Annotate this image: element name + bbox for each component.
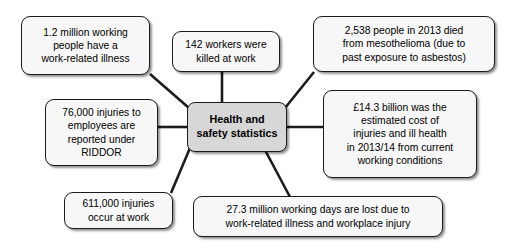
node-cost[interactable]: £14.3 billion was the estimated cost of … xyxy=(323,90,477,178)
connector-center-to-injuries xyxy=(171,148,190,193)
connector-center-to-mesothelioma xyxy=(285,72,314,108)
node-center-label: Health and safety statistics xyxy=(193,113,281,140)
node-days-lost[interactable]: 27.3 million working days are lost due t… xyxy=(193,196,443,237)
node-center-health-and-safety-statistics[interactable]: Health and safety statistics xyxy=(187,102,287,152)
mind-map-diagram: 1.2 million working people have a work-r… xyxy=(0,0,510,251)
connector-center-to-days-lost xyxy=(265,150,290,197)
node-killed[interactable]: 142 workers were killed at work xyxy=(172,31,280,72)
node-illness-label: 1.2 million working people have a work-r… xyxy=(27,26,144,66)
node-mesothelioma[interactable]: 2,538 people in 2013 died from mesotheli… xyxy=(313,16,495,72)
node-cost-label: £14.3 billion was the estimated cost of … xyxy=(329,101,471,167)
node-riddor[interactable]: 76,000 injuries to employees are reporte… xyxy=(45,99,158,166)
node-riddor-label: 76,000 injuries to employees are reporte… xyxy=(51,106,152,159)
node-killed-label: 142 workers were killed at work xyxy=(178,38,274,64)
node-injuries-label: 611,000 injuries occur at work xyxy=(70,197,167,223)
node-illness[interactable]: 1.2 million working people have a work-r… xyxy=(21,16,150,75)
node-mesothelioma-label: 2,538 people in 2013 died from mesotheli… xyxy=(319,24,489,64)
node-days-lost-label: 27.3 million working days are lost due t… xyxy=(199,203,437,229)
node-injuries[interactable]: 611,000 injuries occur at work xyxy=(64,192,173,229)
